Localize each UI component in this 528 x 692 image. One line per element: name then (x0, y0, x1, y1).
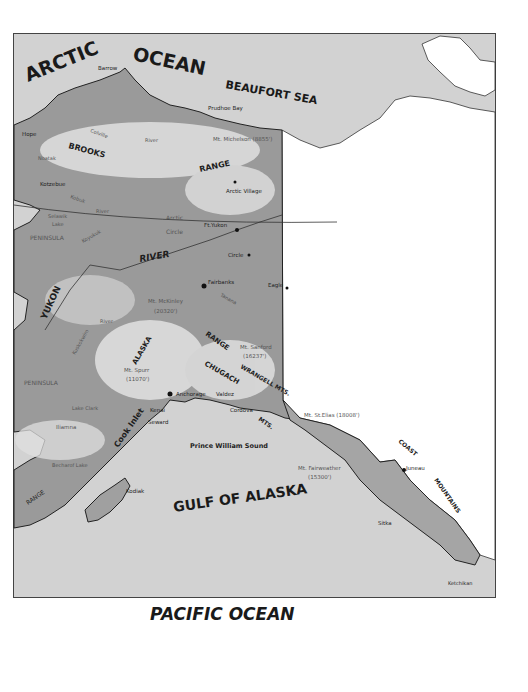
label-arctic-circle-2: Circle (166, 228, 183, 235)
label-alaska-peninsula: PENINSULA (24, 379, 59, 386)
town-prudhoe-bay: Prudhoe Bay (208, 105, 244, 112)
river-label-1: River (145, 137, 159, 143)
lake-becharof: Becharof Lake (52, 462, 88, 468)
label-seward-peninsula: PENINSULA (30, 234, 65, 241)
peak-st-elias: Mt. St.Elias (18008') (304, 412, 360, 418)
town-dot-circle (248, 254, 251, 257)
town-circle: Circle (228, 252, 244, 258)
peak-sanford-name: Mt. Sanford (240, 344, 272, 350)
town-eagle: Eagle (268, 282, 284, 289)
town-dot-anchorage (168, 392, 173, 397)
town-dot-eagle (286, 287, 289, 290)
town-hope: Hope (22, 131, 37, 138)
peak-spurr-elevation: (11070') (126, 376, 149, 382)
lake-selawik-1: Selawik (48, 213, 67, 219)
town-ketchikan: Ketchikan (448, 580, 472, 586)
town-arctic-village: Arctic Village (226, 188, 262, 195)
town-kenai: Kenai (150, 407, 166, 413)
river-label-2: River (96, 208, 110, 214)
town-dot-fairbanks (202, 284, 207, 289)
town-iliamna: Iliamna (56, 424, 76, 430)
town-cordova: Cordova (230, 407, 253, 413)
river-label-3: River (100, 318, 114, 324)
lake-clark: Lake Clark (72, 405, 98, 411)
label-arctic-circle-1: Arctic (166, 214, 183, 221)
river-noatak: Noatak (38, 155, 56, 161)
label-pacific-ocean: PACIFIC OCEAN (150, 604, 295, 624)
town-barrow: Barrow (98, 65, 118, 71)
town-sitka: Sitka (378, 520, 392, 526)
town-dot-arctic-village (234, 181, 237, 184)
town-kotzebue: Kotzebue (40, 181, 66, 187)
peak-fairweather-elevation: (15300') (308, 474, 331, 480)
alaska-map: ARCTIC OCEAN BEAUFORT SEA GULF OF ALASKA… (0, 0, 528, 692)
town-dot-ft-yukon (235, 228, 239, 232)
town-juneau: Juneau (405, 465, 425, 472)
peak-fairweather-name: Mt. Fairweather (298, 465, 341, 471)
town-valdez: Valdez (216, 391, 234, 397)
town-seward: Seward (148, 419, 168, 425)
town-ft-yukon: Ft.Yukon (204, 222, 228, 228)
label-prince-william-sound: Prince William Sound (190, 442, 268, 450)
peak-michelson: Mt. Michelson (8855') (213, 136, 272, 142)
lake-selawik-2: Lake (52, 221, 64, 227)
town-anchorage: Anchorage (176, 391, 206, 398)
town-fairbanks: Fairbanks (208, 279, 234, 285)
peak-mckinley-name: Mt. McKinley (148, 298, 184, 305)
peak-spurr-name: Mt. Spurr (124, 367, 150, 374)
town-kodiak: Kodiak (126, 488, 145, 494)
peak-mckinley-elevation: (20320') (154, 308, 177, 314)
peak-sanford-elevation: (16237') (243, 353, 266, 359)
